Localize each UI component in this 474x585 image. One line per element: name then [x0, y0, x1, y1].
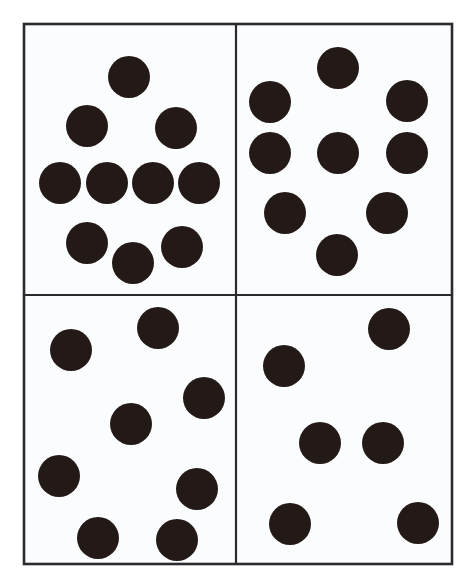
dot: [183, 377, 225, 419]
dot: [108, 56, 150, 98]
dot: [366, 192, 408, 234]
dot: [269, 503, 311, 545]
dot: [50, 329, 92, 371]
dot: [156, 519, 198, 561]
dot: [66, 105, 108, 147]
dot: [386, 80, 428, 122]
dot: [39, 162, 81, 204]
dot: [77, 517, 119, 559]
dot: [86, 162, 128, 204]
dot: [176, 468, 218, 510]
dot: [132, 162, 174, 204]
dot: [386, 132, 428, 174]
dot: [368, 308, 410, 350]
dot: [317, 132, 359, 174]
dot: [112, 242, 154, 284]
dot-array-figure: [0, 0, 474, 585]
dot: [161, 226, 203, 268]
dot: [155, 107, 197, 149]
dot: [66, 222, 108, 264]
dot: [264, 192, 306, 234]
dot: [397, 502, 439, 544]
dot: [249, 132, 291, 174]
figure-svg-canvas: [0, 0, 474, 585]
dot: [137, 307, 179, 349]
dot: [178, 162, 220, 204]
dot: [299, 422, 341, 464]
dot: [317, 47, 359, 89]
dot: [249, 81, 291, 123]
dot: [38, 455, 80, 497]
dot: [263, 345, 305, 387]
dot: [110, 403, 152, 445]
dot: [362, 422, 404, 464]
dot: [316, 234, 358, 276]
